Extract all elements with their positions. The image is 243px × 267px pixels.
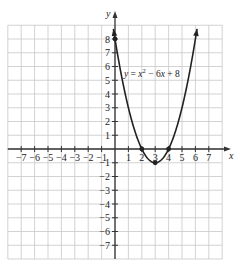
y-tick-label: −2 (99, 171, 110, 182)
y-tick-label: −7 (99, 240, 110, 251)
x-tick-label: −4 (56, 152, 67, 163)
equation-label: y = x2 − 6x + 8 (123, 67, 180, 79)
y-tick-label: −3 (99, 185, 110, 196)
y-tick-label: 8 (105, 34, 110, 45)
y-tick-label: 6 (105, 61, 110, 72)
y-axis-label: y (105, 8, 111, 19)
x-tick-label: −6 (29, 152, 40, 163)
y-tick-label: 7 (105, 47, 110, 58)
y-tick-label: 1 (105, 130, 110, 141)
y-tick-label: −4 (99, 199, 110, 210)
x-tick-label: 1 (126, 152, 131, 163)
point-marker (153, 160, 158, 165)
x-axis-label: x (228, 150, 234, 161)
point-marker (166, 147, 171, 152)
x-tick-label: −2 (83, 152, 94, 163)
x-tick-label: −3 (69, 152, 80, 163)
x-tick-label: 5 (180, 152, 185, 163)
x-tick-label: −5 (43, 152, 54, 163)
x-tick-label: 7 (206, 152, 211, 163)
y-tick-label: 4 (105, 89, 110, 100)
x-tick-label: −7 (16, 152, 27, 163)
y-tick-label: −5 (99, 212, 110, 223)
point-marker (113, 37, 118, 42)
y-tick-label: 5 (105, 75, 110, 86)
parabola-graph: −7−6−5−4−3−2−11234567−7−6−5−4−3−2−112345… (0, 0, 243, 267)
x-tick-label: 6 (193, 152, 198, 163)
y-tick-label: 2 (105, 116, 110, 127)
point-marker (139, 147, 144, 152)
y-tick-label: 3 (105, 102, 110, 113)
y-tick-label: −1 (99, 157, 110, 168)
y-tick-label: −6 (99, 226, 110, 237)
